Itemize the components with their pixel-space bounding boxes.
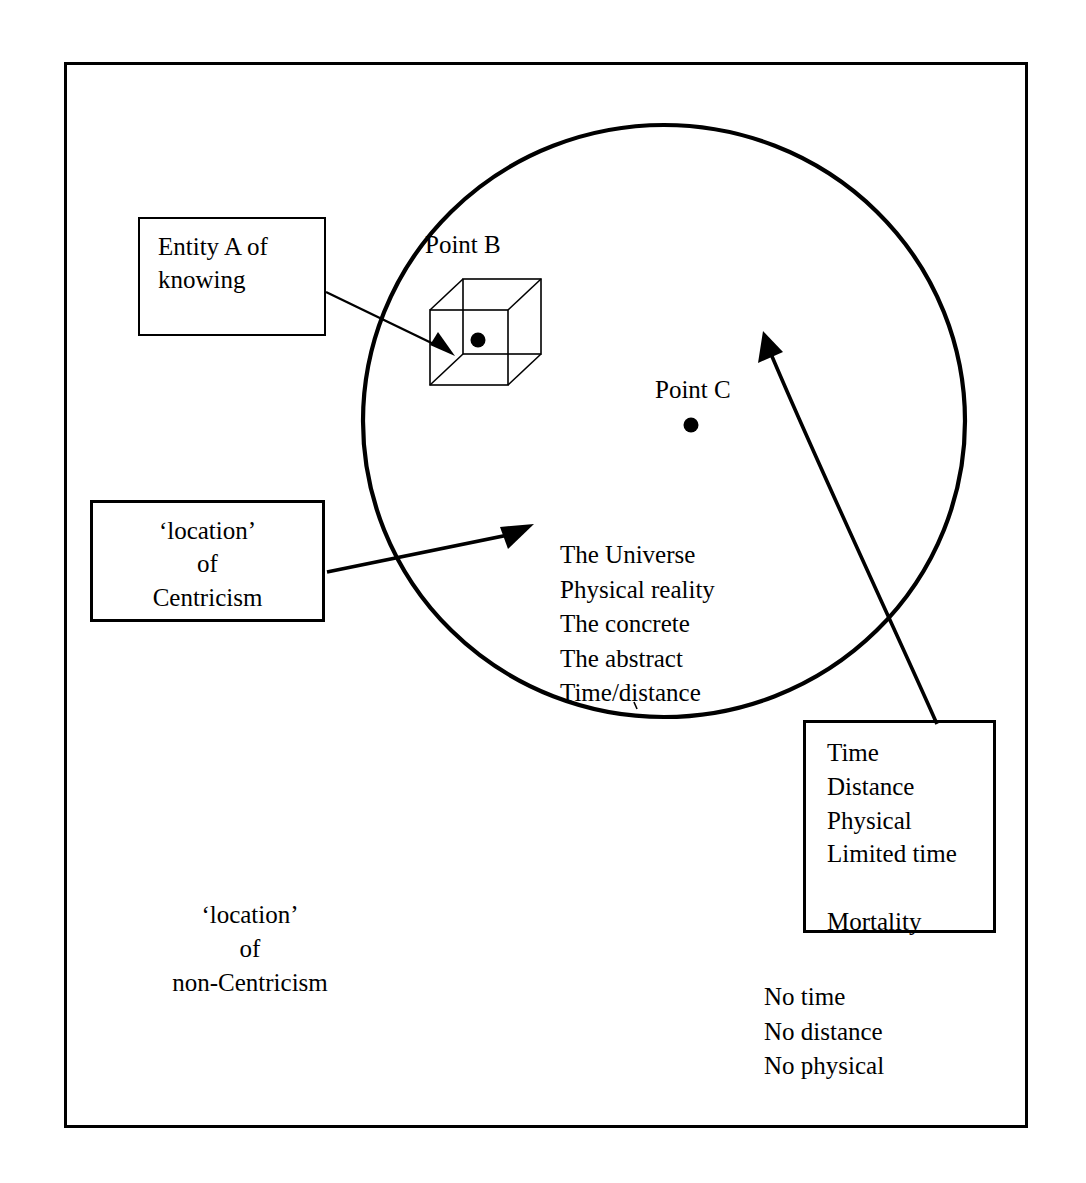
box-attributes-label: Time Distance Physical Limited time Mort… [827, 736, 957, 939]
label-universe-attributes-list: The Universe Physical reality The concre… [560, 538, 715, 711]
box-location-of-centricism[interactable]: ‘location’ of Centricism [90, 500, 325, 622]
label-non-centricism-attributes-list: No time No distance No physical [764, 980, 884, 1084]
diagram-canvas: Entity A of knowing ‘location’ of Centri… [0, 0, 1086, 1183]
box-entity-a-label: Entity A of knowing [158, 230, 268, 297]
label-point-b: Point B [425, 228, 501, 261]
label-point-c: Point C [655, 373, 731, 406]
box-centricism-label: ‘location’ of Centricism [93, 514, 322, 614]
label-location-of-non-centricism: ‘location’ of non-Centricism [120, 898, 380, 999]
box-entity-a-of-knowing[interactable]: Entity A of knowing [138, 217, 326, 336]
box-physical-attributes[interactable]: Time Distance Physical Limited time Mort… [803, 720, 996, 933]
